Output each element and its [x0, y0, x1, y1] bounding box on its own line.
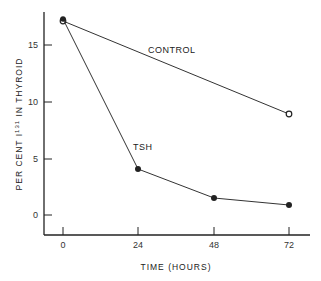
y-axis-title: PER CENT I131 IN THYROID	[14, 58, 24, 191]
series-label-control: CONTROL	[148, 45, 196, 55]
y-axis-title-suffix: IN THYROID	[14, 58, 24, 120]
y-tick-label: 15	[28, 40, 38, 50]
x-tick-label: 48	[209, 240, 219, 250]
y-tick-label: 0	[33, 210, 38, 220]
series-label-tsh: TSH	[133, 142, 153, 152]
x-tick-label: 72	[284, 240, 294, 250]
y-axis-title-prefix: PER CENT I	[14, 133, 24, 191]
data-point	[286, 202, 292, 208]
x-ticks: 0 24 48 72	[60, 227, 294, 250]
chart: 0 5 10 15 0 24 48 72 TIME (HOURS) PER CE…	[0, 0, 321, 281]
y-axis-title-superscript: 131	[14, 120, 20, 133]
x-tick-label: 24	[133, 240, 143, 250]
data-point	[286, 111, 292, 117]
data-point	[135, 166, 141, 172]
series-control: CONTROL	[60, 18, 292, 117]
data-point	[60, 16, 66, 22]
y-tick-label: 10	[28, 97, 38, 107]
x-tick-label: 0	[60, 240, 65, 250]
y-tick-label: 5	[33, 154, 38, 164]
y-ticks: 0 5 10 15	[28, 40, 52, 220]
x-axis-title: TIME (HOURS)	[140, 262, 211, 272]
data-point	[211, 195, 217, 201]
